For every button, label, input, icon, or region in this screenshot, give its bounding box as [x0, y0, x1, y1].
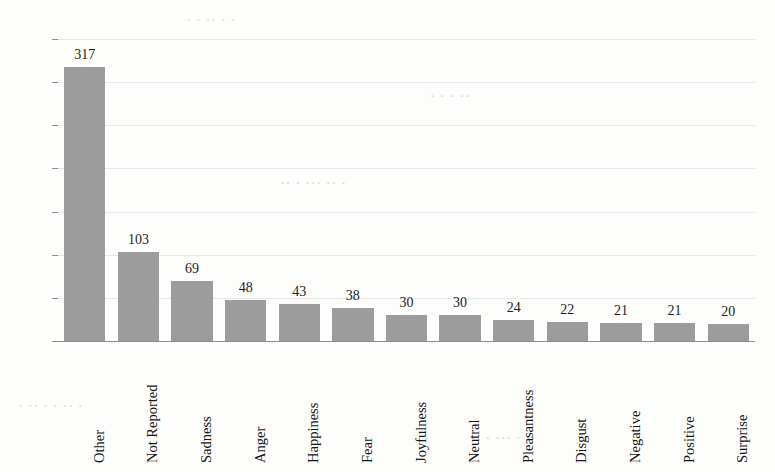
- bar-disgust[interactable]: [547, 322, 588, 341]
- bar-value-label-other: 317: [58, 47, 112, 63]
- bar-value-label-negative: 21: [594, 303, 648, 319]
- bar-value-label-not-reported: 103: [112, 232, 166, 248]
- gridline-350: [58, 39, 755, 40]
- bar-positive[interactable]: [654, 323, 695, 341]
- bar-value-label-sadness: 69: [165, 261, 219, 277]
- y-tick-mark-350: [52, 39, 58, 40]
- x-tick-label-sadness: Sadness: [198, 416, 215, 463]
- bar-value-label-disgust: 22: [541, 302, 595, 318]
- y-tick-mark-150: [52, 212, 58, 213]
- x-tick-label-disgust: Disgust: [573, 419, 590, 463]
- bar-fear[interactable]: [332, 308, 373, 341]
- bar-not-reported[interactable]: [118, 252, 159, 341]
- bar-happiness[interactable]: [279, 304, 320, 341]
- gridline-100: [58, 255, 755, 256]
- bar-value-label-happiness: 43: [272, 284, 326, 300]
- gridline-150: [58, 212, 755, 213]
- bar-other[interactable]: [64, 67, 105, 341]
- x-tick-label-pleasantness: Pleasantness: [520, 390, 537, 463]
- bar-neutral[interactable]: [439, 315, 480, 341]
- bar-value-label-joyfulness: 30: [380, 295, 434, 311]
- x-tick-label-negative: Negative: [627, 411, 644, 463]
- x-tick-label-not-reported: Not Reported: [144, 384, 161, 463]
- bar-sadness[interactable]: [171, 281, 212, 341]
- x-tick-label-surprise: Surprise: [734, 415, 751, 463]
- gridline-200: [58, 168, 755, 169]
- x-tick-label-joyfulness: Joyfulness: [413, 402, 430, 463]
- x-axis-label-group: OtherNot ReportedSadnessAngerHappinessFe…: [58, 345, 755, 470]
- x-tick-label-anger: Anger: [252, 427, 269, 463]
- bar-value-label-positive: 21: [648, 303, 702, 319]
- bar-value-label-fear: 38: [326, 288, 380, 304]
- y-tick-mark-250: [52, 125, 58, 126]
- bar-value-label-anger: 48: [219, 280, 273, 296]
- bar-value-label-pleasantness: 24: [487, 300, 541, 316]
- bar-value-label-neutral: 30: [433, 295, 487, 311]
- gridline-300: [58, 82, 755, 83]
- bar-negative[interactable]: [600, 323, 641, 341]
- y-tick-mark-0: [52, 341, 58, 342]
- x-tick-label-fear: Fear: [359, 437, 376, 463]
- page-bleed-artifact: · · ·· · ·: [186, 12, 236, 29]
- plot-area: 0501001502002503003503171036948433830302…: [58, 39, 755, 341]
- x-tick-label-other: Other: [91, 430, 108, 463]
- bar-surprise[interactable]: [708, 324, 749, 341]
- bar-joyfulness[interactable]: [386, 315, 427, 341]
- bar-pleasantness[interactable]: [493, 320, 534, 341]
- y-tick-mark-300: [52, 82, 58, 83]
- x-tick-label-positive: Positive: [681, 416, 698, 463]
- gridline-250: [58, 125, 755, 126]
- bar-value-label-surprise: 20: [701, 304, 755, 320]
- x-axis-line: [58, 341, 755, 342]
- y-tick-mark-100: [52, 255, 58, 256]
- bar-anger[interactable]: [225, 300, 266, 341]
- y-tick-mark-200: [52, 168, 58, 169]
- x-tick-label-happiness: Happiness: [305, 403, 322, 463]
- x-tick-label-neutral: Neutral: [466, 420, 483, 463]
- y-tick-mark-50: [52, 298, 58, 299]
- bar-chart: · · ·· · · · · · ·· ·· · ··· ·· · · ·· ·…: [0, 0, 775, 472]
